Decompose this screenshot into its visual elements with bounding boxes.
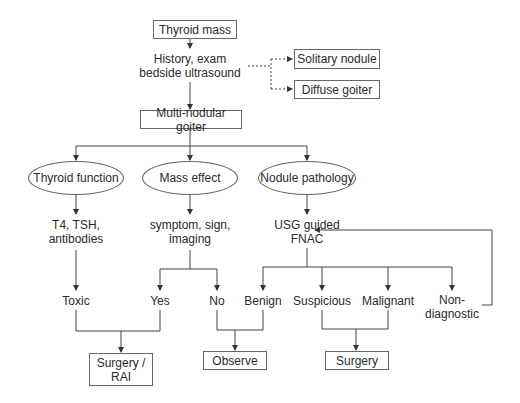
node-no: No [202, 292, 232, 310]
node-toxic: Toxic [51, 292, 101, 310]
node-mass-tests: symptom, sign, imaging [140, 216, 240, 248]
node-benign: Benign [238, 292, 288, 310]
node-history-exam: History, exam bedside ultrasound [128, 50, 252, 82]
nodule-pathology-label: Nodule pathology [260, 171, 353, 185]
usg-line-2: FNAC [291, 232, 324, 246]
surgery-label: Surgery [336, 354, 378, 368]
node-observe: Observe [203, 351, 267, 370]
node-mass-effect: Mass effect [142, 161, 238, 195]
diffuse-goiter-label: Diffuse goiter [302, 83, 372, 97]
node-multinodular-goiter: Multi-nodular goiter [140, 110, 242, 129]
history-line-1: History, exam [154, 52, 226, 66]
benign-label: Benign [244, 294, 281, 308]
multinodular-goiter-label: Multi-nodular goiter [141, 106, 241, 134]
node-yes: Yes [140, 292, 180, 310]
thyroid-tests-line-2: antibodies [49, 232, 104, 246]
node-surgery: Surgery [325, 351, 389, 370]
surgery-rai-line-1: Surgery / [97, 356, 146, 370]
no-label: No [209, 294, 224, 308]
node-thyroid-tests: T4, TSH, antibodies [26, 216, 126, 248]
node-malignant: Malignant [358, 292, 418, 310]
node-nodule-pathology: Nodule pathology [258, 161, 356, 195]
node-nondiagnostic: Non- diagnostic [422, 292, 482, 322]
node-thyroid-mass: Thyroid mass [153, 20, 237, 39]
observe-label: Observe [212, 354, 257, 368]
mass-tests-line-1: symptom, sign, [150, 218, 231, 232]
node-diffuse-goiter: Diffuse goiter [294, 80, 380, 99]
node-suspicious: Suspicious [292, 292, 352, 310]
node-thyroid-mass-label: Thyroid mass [159, 23, 231, 37]
surgery-rai-line-2: RAI [111, 370, 131, 384]
node-thyroid-function: Thyroid function [28, 161, 124, 195]
history-line-2: bedside ultrasound [139, 66, 240, 80]
toxic-label: Toxic [62, 294, 89, 308]
nondiagnostic-line-1: Non- [439, 293, 465, 307]
node-surgery-rai: Surgery / RAI [89, 353, 153, 386]
suspicious-label: Suspicious [293, 294, 351, 308]
malignant-label: Malignant [362, 294, 414, 308]
mass-effect-label: Mass effect [159, 171, 220, 185]
usg-line-1: USG guided [274, 218, 339, 232]
solitary-nodule-label: Solitary nodule [297, 52, 376, 66]
mass-tests-line-2: imaging [169, 232, 211, 246]
nondiagnostic-line-2: diagnostic [425, 307, 479, 321]
thyroid-function-label: Thyroid function [33, 171, 118, 185]
node-solitary-nodule: Solitary nodule [294, 49, 380, 69]
node-usg-fnac: USG guided FNAC [262, 216, 352, 248]
thyroid-tests-line-1: T4, TSH, [52, 218, 100, 232]
connector-lines [0, 0, 520, 403]
yes-label: Yes [150, 294, 170, 308]
